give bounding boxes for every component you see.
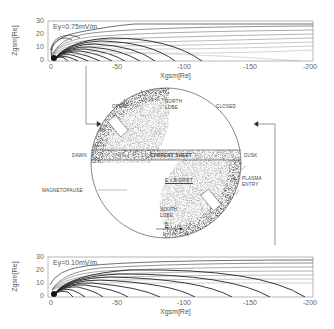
bottom-ytick-20: 20 — [36, 266, 44, 273]
label-closed: CLOSED — [216, 104, 236, 110]
top-xtick-150: -150 — [243, 63, 257, 70]
label-plasma-entry: PLASMA ENTRY — [242, 176, 262, 187]
label-dawn: DAWN — [72, 153, 87, 159]
top-xtick-50: -50 — [112, 63, 122, 70]
label-north-lobe: NORTH LOBE — [165, 99, 182, 110]
top-ytick-10: 10 — [36, 43, 44, 50]
top-xtick-200: -200 — [303, 63, 317, 70]
bottom-xtick-200: -200 — [303, 299, 317, 306]
label-current-sheet: CURRENT SHEET — [150, 153, 192, 159]
top-efield-annotation: Ey=0.75mV/m — [53, 23, 97, 30]
bottom-xtick-50: -50 — [112, 299, 122, 306]
bottom-y-axis-label: Zgsm[Re] — [11, 257, 18, 297]
top-xtick-100: -100 — [177, 63, 191, 70]
bottom-xtick-100: -100 — [177, 299, 191, 306]
figure-graphics — [0, 0, 334, 329]
top-ytick-20: 20 — [36, 30, 44, 37]
bottom-x-axis-label: Xgsm[Re] — [160, 308, 191, 315]
top-x-axis-label: Xgsm[Re] — [160, 72, 191, 79]
label-magnetopause: MAGNETOPAUSE — [42, 188, 83, 194]
label-dusk: DUSK — [244, 153, 258, 159]
label-open: OPEN — [112, 104, 126, 110]
label-exb-drift: E x B DRIFT — [165, 178, 193, 184]
top-y-axis-label: Zgsm[Re] — [11, 21, 18, 61]
label-b-vector: B — [165, 222, 168, 228]
bottom-ytick-10: 10 — [36, 279, 44, 286]
bottom-efield-annotation: Ey=0.10mV/m — [53, 259, 97, 266]
top-xtick-0: 0 — [49, 63, 53, 70]
bottom-xtick-150: -150 — [243, 299, 257, 306]
bottom-xtick-0: 0 — [49, 299, 53, 306]
top-ytick-0: 0 — [40, 56, 44, 63]
label-south-lobe: SOUTH LOBE — [160, 207, 177, 218]
bottom-ytick-0: 0 — [40, 292, 44, 299]
bottom-ytick-30: 30 — [36, 253, 44, 260]
top-ytick-30: 30 — [36, 17, 44, 24]
